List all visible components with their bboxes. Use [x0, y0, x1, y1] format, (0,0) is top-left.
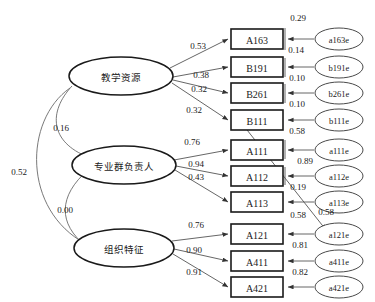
- observed-variable-A421[interactable]: A421: [231, 277, 283, 297]
- sem-path-diagram: A163 B191 B261 B111 A111 A112: [0, 0, 375, 302]
- observed-label-A111: A111: [246, 146, 267, 157]
- coef-teaching-B111: 0.32: [186, 105, 202, 115]
- error-label-a121e: a121e: [329, 230, 350, 240]
- error-term-a421e[interactable]: a421e: [315, 276, 363, 298]
- coef-error-A113: 0.58: [290, 210, 306, 220]
- error-term-a163e[interactable]: a163e: [315, 28, 363, 50]
- coef-error-A121: 0.81: [292, 240, 308, 250]
- observed-variable-B191[interactable]: B191: [231, 57, 283, 77]
- error-label-b111e: b111e: [329, 116, 349, 126]
- error-term-a411e[interactable]: a411e: [315, 250, 363, 272]
- observed-variable-A111[interactable]: A111: [231, 140, 283, 160]
- observed-label-A112: A112: [246, 172, 268, 183]
- coef-teaching-B191: 0.38: [193, 70, 209, 80]
- coef-cov-leader-org: 0.00: [57, 205, 73, 215]
- error-terms: a163e b191e b261e b111e a111e a112e: [315, 28, 363, 298]
- coef-leader-A112: 0.94: [188, 159, 204, 169]
- error-label-b191e: b191e: [329, 63, 350, 73]
- latent-label-organizational-traits: 组织特征: [104, 244, 144, 255]
- observed-label-A121: A121: [246, 230, 268, 241]
- coef-leader-A113: 0.43: [188, 172, 204, 182]
- error-term-a111e[interactable]: a111e: [315, 139, 363, 161]
- coef-error-B111: 0.58: [289, 126, 305, 136]
- observed-variable-B111[interactable]: B111: [231, 110, 283, 130]
- coef-error-B261: 0.10: [289, 99, 305, 109]
- coef-error-A111: 0.89: [297, 156, 313, 166]
- observed-variable-A113[interactable]: A113: [231, 192, 283, 212]
- observed-label-A113: A113: [246, 198, 268, 209]
- coef-error-A112: 0.19: [290, 182, 306, 192]
- error-term-b111e[interactable]: b111e: [315, 109, 363, 131]
- error-label-a112e: a112e: [329, 172, 349, 182]
- loading-coefficients: 0.53 0.38 0.32 0.32 0.76 0.94 0.43 0.76 …: [184, 41, 209, 277]
- error-label-b261e: b261e: [329, 89, 350, 99]
- observed-label-A163: A163: [246, 35, 268, 46]
- error-label-a111e: a111e: [329, 146, 349, 156]
- coef-cov-teaching-leader: 0.16: [53, 123, 69, 133]
- coef-error-A411: 0.82: [292, 267, 308, 277]
- sem-canvas: A163 B191 B261 B111 A111 A112: [0, 0, 375, 302]
- coef-cov-teaching-org: 0.52: [11, 167, 27, 177]
- latent-variable-organizational-traits[interactable]: 组织特征: [74, 229, 174, 267]
- observed-variable-A411[interactable]: A411: [231, 251, 283, 271]
- observed-label-B111: B111: [247, 116, 268, 127]
- coef-leader-A111: 0.76: [184, 137, 200, 147]
- observed-variable-A112[interactable]: A112: [231, 166, 283, 186]
- coef-teaching-A163: 0.53: [190, 41, 206, 51]
- covariance-curve-teaching-leader: [56, 86, 88, 157]
- observed-label-A421: A421: [246, 283, 268, 294]
- coef-org-A121: 0.76: [188, 220, 204, 230]
- observed-label-B261: B261: [246, 89, 268, 100]
- error-term-a121e[interactable]: a121e: [315, 223, 363, 245]
- loading-path-org-A121: [172, 234, 228, 241]
- error-label-a163e: a163e: [329, 35, 350, 45]
- error-term-a112e[interactable]: a112e: [315, 165, 363, 187]
- coef-cov-a113e-a121e: 0.58: [318, 207, 334, 217]
- coef-org-A421: 0.91: [186, 267, 202, 277]
- observed-variable-A163[interactable]: A163: [231, 29, 283, 49]
- latent-variables: 教学资源 专业群负责人 组织特征: [69, 57, 176, 267]
- coef-org-A411: 0.90: [186, 245, 202, 255]
- latent-label-program-leader: 专业群负责人: [94, 161, 154, 172]
- coef-error-A163-top: 0.29: [290, 13, 306, 23]
- observed-variable-B261[interactable]: B261: [231, 83, 283, 103]
- latent-variable-program-leader[interactable]: 专业群负责人: [72, 146, 176, 184]
- observed-label-A411: A411: [246, 257, 268, 268]
- latent-variable-teaching-resources[interactable]: 教学资源: [69, 57, 173, 95]
- observed-variable-A121[interactable]: A121: [231, 224, 283, 244]
- error-label-a411e: a411e: [329, 257, 349, 267]
- coef-error-B191: 0.10: [289, 73, 305, 83]
- error-label-a421e: a421e: [329, 283, 350, 293]
- observed-variables: A163 B191 B261 B111 A111 A112: [231, 29, 283, 297]
- coef-error-A163: 0.14: [288, 45, 304, 55]
- latent-label-teaching-resources: 教学资源: [101, 72, 141, 83]
- error-term-b261e[interactable]: b261e: [315, 82, 363, 104]
- error-term-b191e[interactable]: b191e: [315, 56, 363, 78]
- coef-teaching-B261: 0.32: [191, 84, 207, 94]
- covariance-labels: 0.16 0.52 0.00: [11, 123, 73, 215]
- observed-label-B191: B191: [246, 63, 268, 74]
